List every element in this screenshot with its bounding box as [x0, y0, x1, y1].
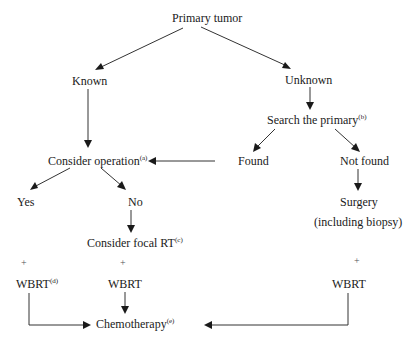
- node-wbrt-left: WBRT(d): [16, 277, 58, 291]
- node-label: Search the primary: [267, 113, 358, 127]
- node-wbrt-mid: WBRT: [108, 277, 142, 291]
- node-including-biopsy: (including biopsy): [314, 215, 402, 229]
- arrowhead-icon: [121, 306, 129, 314]
- node-label: Primary tumor: [172, 11, 242, 25]
- node-primary-tumor: Primary tumor: [172, 11, 242, 25]
- node-label: Found: [238, 154, 269, 168]
- arrowhead-icon: [84, 140, 92, 148]
- footnote-marker: (a): [140, 154, 148, 162]
- node-label: WBRT: [332, 277, 366, 291]
- node-wbrt-right: WBRT: [332, 277, 366, 291]
- arrowhead-icon: [83, 321, 91, 329]
- arrowhead-icon: [306, 102, 314, 110]
- edge-operation-to-no: [101, 168, 122, 186]
- node-yes: Yes: [17, 195, 34, 209]
- node-label: +: [21, 257, 27, 268]
- node-label: +: [354, 255, 360, 266]
- footnote-marker: (d): [50, 277, 58, 285]
- node-label: WBRT: [108, 277, 142, 291]
- node-consider-focal-rt: Consider focal RT(c): [87, 236, 183, 250]
- flowchart-connectors: [0, 0, 409, 344]
- arrowhead-icon: [204, 321, 212, 329]
- edge-operation-to-yes: [34, 168, 70, 187]
- node-label: WBRT: [16, 277, 50, 291]
- node-surgery: Surgery: [340, 195, 378, 209]
- node-consider-operation: Consider operation(a): [48, 154, 147, 168]
- arrowhead-icon: [148, 157, 156, 165]
- node-found: Found: [238, 154, 269, 168]
- footnote-marker: (b): [358, 113, 366, 121]
- node-known: Known: [72, 74, 107, 88]
- node-label: Chemotherapy: [96, 317, 167, 331]
- arrowhead-icon: [127, 225, 135, 233]
- arrowhead-icon: [282, 62, 291, 69]
- node-label: No: [128, 195, 143, 209]
- node-no: No: [128, 195, 143, 209]
- footnote-marker: (e): [167, 317, 175, 325]
- node-label: Consider focal RT: [87, 236, 175, 250]
- node-chemotherapy: Chemotherapy(e): [96, 317, 174, 331]
- footnote-marker: (c): [175, 236, 183, 244]
- arrowhead-icon: [354, 183, 362, 191]
- arrowhead-icon: [30, 182, 38, 190]
- node-label: Surgery: [340, 195, 378, 209]
- node-label: Unknown: [285, 73, 332, 87]
- node-label: Yes: [17, 195, 34, 209]
- plus-sign-right: +: [354, 254, 360, 268]
- edge-primary-to-unknown: [201, 27, 287, 66]
- node-label: +: [120, 257, 126, 268]
- treatment-flowchart: Primary tumor Known Unknown Search the p…: [0, 0, 409, 344]
- node-label: Known: [72, 74, 107, 88]
- node-label: Not found: [340, 154, 389, 168]
- node-search-primary: Search the primary(b): [267, 113, 366, 127]
- node-label: Consider operation: [48, 154, 140, 168]
- arrowhead-icon: [95, 63, 104, 70]
- edge-wbrt-left-to-chemo: [29, 293, 85, 325]
- node-unknown: Unknown: [285, 73, 332, 87]
- edge-search-to-found: [256, 129, 275, 148]
- node-not-found: Not found: [340, 154, 389, 168]
- edge-wbrt-right-to-chemo: [210, 293, 348, 325]
- plus-sign-mid: +: [120, 256, 126, 270]
- node-label: (including biopsy): [314, 215, 402, 229]
- edge-primary-to-known: [99, 28, 183, 68]
- edge-search-to-notfound: [335, 129, 356, 148]
- plus-sign-left: +: [21, 256, 27, 270]
